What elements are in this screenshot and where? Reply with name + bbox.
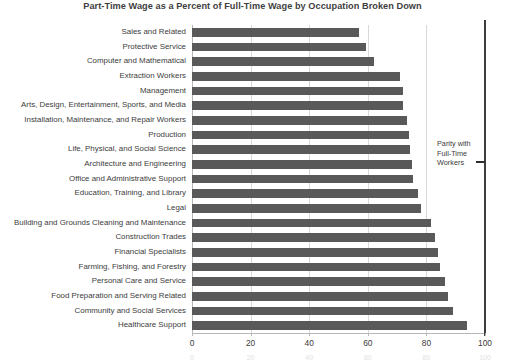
category-label: Office and Administrative Support [0,172,186,187]
bar-row: Construction Trades [192,230,485,245]
bar [192,131,409,139]
parity-annotation-line-2: Full-Time [437,149,485,159]
bar [192,292,448,300]
bar [192,219,431,227]
x-tick-label: 0 [190,338,195,348]
plot-area: Sales and RelatedProtective ServiceCompu… [192,25,485,333]
category-label: Architecture and Engineering [0,157,186,172]
bar-row: Healthcare Support [192,318,485,333]
x-tick-label: 60 [363,338,372,348]
bar-row: Legal [192,201,485,216]
category-label: Production [0,128,186,143]
x-tick-mark [426,333,427,336]
bar-row: Management [192,84,485,99]
bar [192,101,403,109]
bar-row: Arts, Design, Entertainment, Sports, and… [192,98,485,113]
category-label: Computer and Mathematical [0,54,186,69]
bar [192,175,413,183]
bar-row: Sales and Related [192,25,485,40]
category-label: Installation, Maintenance, and Repair Wo… [0,113,186,128]
bar-row: Community and Social Services [192,304,485,319]
bottom-artifact-label: 100 [479,354,491,361]
x-tick-mark [485,333,486,336]
bottom-artifact-label: 0 [190,354,194,361]
category-label: Construction Trades [0,230,186,245]
bottom-artifact-label: 20 [247,354,255,361]
bar [192,307,453,315]
x-tick-label: 100 [478,338,492,348]
bar [192,233,435,241]
x-tick-mark [251,333,252,336]
category-label: Farming, Fishing, and Forestry [0,260,186,275]
category-label: Extraction Workers [0,69,186,84]
x-tick-mark [309,333,310,336]
bar-row: Computer and Mathematical [192,54,485,69]
bar-row: Food Preparation and Serving Related [192,289,485,304]
parity-annotation-line-1: Parity with [437,139,485,149]
bar [192,145,410,153]
bar-chart: Part-Time Wage as a Percent of Full-Time… [0,0,505,363]
bar [192,43,366,51]
parity-reference-line [484,20,486,336]
bar-row: Financial Specialists [192,245,485,260]
x-tick-label: 80 [422,338,431,348]
parity-dash-icon [476,161,485,163]
category-label: Legal [0,201,186,216]
bar [192,321,467,329]
bar-row: Office and Administrative Support [192,172,485,187]
bar [192,87,403,95]
bar-row: Extraction Workers [192,69,485,84]
bar-row: Farming, Fishing, and Forestry [192,260,485,275]
category-label: Personal Care and Service [0,274,186,289]
bar [192,277,445,285]
category-label: Healthcare Support [0,318,186,333]
parity-annotation: Parity with Full-Time Workers [437,139,485,168]
chart-title: Part-Time Wage as a Percent of Full-Time… [0,1,505,11]
bar [192,189,418,197]
bar-row: Personal Care and Service [192,274,485,289]
x-axis-line [192,333,485,334]
x-tick-mark [192,333,193,336]
bar [192,160,412,168]
bar-row: Education, Training, and Library [192,186,485,201]
bar [192,204,421,212]
bar [192,248,438,256]
category-label: Food Preparation and Serving Related [0,289,186,304]
bottom-artifact-label: 80 [422,354,430,361]
x-tick-mark [368,333,369,336]
category-label: Management [0,84,186,99]
bar [192,28,359,36]
category-label: Education, Training, and Library [0,186,186,201]
bar [192,263,440,271]
bar-row: Installation, Maintenance, and Repair Wo… [192,113,485,128]
bar [192,116,407,124]
page-bottom-artifact: 020406080100 [0,354,505,363]
category-label: Financial Specialists [0,245,186,260]
x-tick-label: 40 [305,338,314,348]
bar [192,72,400,80]
category-label: Community and Social Services [0,304,186,319]
bar-row: Protective Service [192,40,485,55]
bar-row: Building and Grounds Cleaning and Mainte… [192,216,485,231]
x-tick-label: 20 [246,338,255,348]
bottom-artifact-label: 60 [364,354,372,361]
category-label: Life, Physical, and Social Science [0,142,186,157]
category-label: Protective Service [0,40,186,55]
category-label: Sales and Related [0,25,186,40]
bar [192,57,374,65]
category-label: Building and Grounds Cleaning and Mainte… [0,216,186,231]
bottom-artifact-label: 40 [305,354,313,361]
category-label: Arts, Design, Entertainment, Sports, and… [0,98,186,113]
